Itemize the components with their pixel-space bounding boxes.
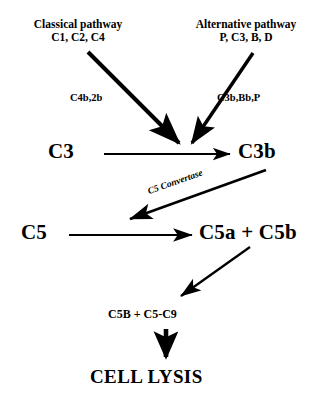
node-membrane-attack-complex: C5B + C5-C9 — [108, 308, 177, 321]
alternative-pathway-title: Alternative pathway — [196, 18, 297, 30]
alternative-pathway-components: P, C3, B, D — [180, 31, 312, 44]
node-cell-lysis: CELL LYSIS — [90, 366, 203, 387]
complement-pathway-diagram: Classical pathway C1, C2, C4 Alternative… — [0, 0, 318, 408]
node-c5a-c5b: C5a + C5b — [199, 221, 297, 245]
alternative-c3-convertase-label: C3b,Bb,P — [217, 92, 260, 104]
c5-convertase-label: C5 Convertase — [146, 167, 204, 196]
node-c3b: C3b — [238, 140, 276, 164]
classical-pathway-components: C1, C2, C4 — [14, 31, 142, 44]
node-c3: C3 — [48, 140, 74, 164]
node-c5: C5 — [21, 221, 47, 245]
arrow-layer — [0, 0, 318, 408]
classical-pathway-label: Classical pathway C1, C2, C4 — [14, 18, 142, 44]
alternative-pathway-label: Alternative pathway P, C3, B, D — [180, 18, 312, 44]
classical-pathway-title: Classical pathway — [34, 18, 123, 30]
arrow-c5b-to-mac — [181, 247, 250, 296]
classical-c3-convertase-label: C4b,2b — [70, 92, 102, 104]
